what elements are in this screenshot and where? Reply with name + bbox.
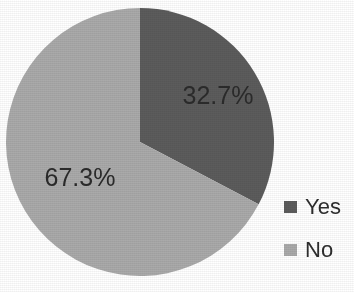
pie-slice-label-no: 67.3% xyxy=(45,163,116,191)
legend-item-yes[interactable]: Yes xyxy=(284,194,354,220)
legend-square-icon xyxy=(284,201,297,213)
legend-item-label-yes: Yes xyxy=(305,196,341,218)
pie-slice-label-yes: 32.7% xyxy=(183,81,254,109)
pie-chart: 32.7% 67.3% Yes No xyxy=(0,0,354,292)
chart-legend: Yes No xyxy=(284,194,354,280)
legend-item-label-no: No xyxy=(305,239,333,261)
legend-square-icon xyxy=(284,244,297,256)
legend-item-no[interactable]: No xyxy=(284,237,354,263)
